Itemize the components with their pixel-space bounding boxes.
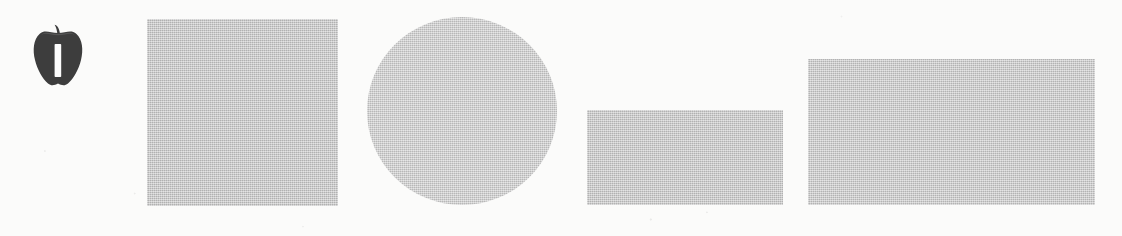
shape-rectangle-small-fill	[587, 110, 783, 205]
shape-rectangle-large	[808, 59, 1095, 205]
shape-circle-fill	[367, 17, 557, 205]
shape-rectangle-small	[587, 110, 783, 205]
shape-rectangle-large-fill	[808, 59, 1095, 205]
shape-circle	[367, 17, 557, 205]
apple-letter-cutout-icon	[55, 44, 62, 77]
shape-square	[147, 19, 338, 206]
shape-square-fill	[147, 19, 338, 206]
worksheet-page	[0, 0, 1122, 236]
apple-icon	[30, 22, 86, 92]
